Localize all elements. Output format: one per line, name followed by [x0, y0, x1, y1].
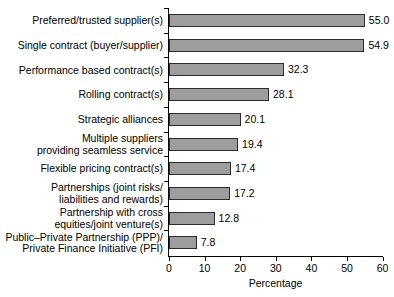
bar-value-label: 17.4 [235, 162, 255, 175]
y-tick [164, 33, 168, 34]
bar-value-label: 7.8 [201, 236, 216, 249]
x-tick-label: 40 [296, 262, 326, 274]
bar [169, 113, 241, 126]
bar-row: Single contract (buyer/supplier)54.9 [0, 39, 386, 64]
bar-category-label: Preferred/trusted supplier(s) [0, 15, 163, 27]
x-tick [169, 257, 170, 261]
bar-value-label: 20.1 [245, 113, 265, 126]
bar-category-label: Performance based contract(s) [0, 65, 163, 77]
x-tick-label: 0 [154, 262, 184, 274]
bar [169, 212, 215, 225]
x-tick-label: 50 [332, 262, 362, 274]
x-tick [205, 257, 206, 261]
y-tick [164, 57, 168, 58]
bar-value-label: 12.8 [219, 212, 239, 225]
bar-category-label: Multiple suppliers providing seamless se… [0, 133, 163, 156]
bar [169, 88, 269, 101]
y-tick [164, 156, 168, 157]
bar-row: Rolling contract(s)28.1 [0, 88, 386, 113]
bar-category-label: Flexible pricing contract(s) [0, 163, 163, 175]
bar [169, 39, 364, 52]
bar-category-label: Strategic alliances [0, 114, 163, 126]
bar-value-label: 55.0 [369, 14, 389, 27]
bar-category-label: Partnership with cross equities/joint ve… [0, 207, 163, 230]
bar-category-label: Single contract (buyer/supplier) [0, 40, 163, 52]
bar [169, 187, 230, 200]
bar [169, 14, 365, 27]
y-tick [164, 206, 168, 207]
y-tick [164, 82, 168, 83]
bar-category-label: Public–Private Partnership (PPP)/ Privat… [0, 232, 163, 255]
x-tick [276, 257, 277, 261]
x-tick [347, 257, 348, 261]
y-tick [164, 230, 168, 231]
x-tick-label: 60 [368, 262, 394, 274]
x-tick [383, 257, 384, 261]
y-tick [164, 8, 168, 9]
bar-value-label: 17.2 [234, 187, 254, 200]
bar-value-label: 19.4 [242, 138, 262, 151]
x-tick-label: 20 [225, 262, 255, 274]
y-tick [164, 107, 168, 108]
x-tick [311, 257, 312, 261]
bar-row: Performance based contract(s)32.3 [0, 63, 386, 88]
x-tick-label: 30 [261, 262, 291, 274]
y-tick [164, 132, 168, 133]
bar [169, 63, 284, 76]
y-tick [164, 181, 168, 182]
bar-row: Preferred/trusted supplier(s)55.0 [0, 14, 386, 39]
bar-value-label: 28.1 [273, 88, 293, 101]
x-tick-label: 10 [190, 262, 220, 274]
bar-category-label: Rolling contract(s) [0, 89, 163, 101]
bar [169, 162, 231, 175]
bar-value-label: 32.3 [288, 63, 308, 76]
bar-row: Multiple suppliers providing seamless se… [0, 138, 386, 163]
bar [169, 138, 238, 151]
x-tick [240, 257, 241, 261]
x-axis-title: Percentage [168, 277, 383, 289]
bar-category-label: Partnerships (joint risks/ liabilities a… [0, 182, 163, 205]
bar [169, 236, 197, 249]
bar-row: Public–Private Partnership (PPP)/ Privat… [0, 236, 386, 261]
bar-value-label: 54.9 [368, 39, 388, 52]
